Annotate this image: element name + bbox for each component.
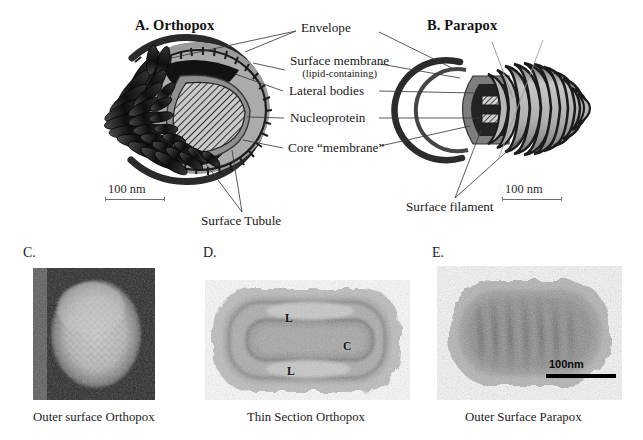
panel-title-orthopox: A. Orthopox (135, 17, 214, 34)
scale-bar-micrograph-e (546, 374, 616, 378)
callout-lateral-bodies: Lateral bodies (289, 84, 364, 98)
panel-letter-c: C. (23, 245, 36, 261)
panel-letter-e: E. (432, 245, 444, 261)
schematic-diagram-region: A. Orthopox B. Parapox Envelope Surface … (0, 0, 643, 240)
scale-label-micrograph-e: 100nm (549, 358, 584, 370)
callout-surface-tubule: Surface Tubule (201, 214, 281, 228)
micrograph-c (33, 268, 155, 400)
caption-d: Thin Section Orthopox (247, 410, 365, 425)
leader-filament-1 (455, 130, 481, 198)
panel-title-parapox: B. Parapox (427, 17, 497, 34)
micrograph-d-svg (205, 280, 410, 400)
leader-core-b (380, 126, 470, 146)
micrograph-d (205, 280, 410, 400)
callout-surface-membrane: Surface membrane (lipid-containing) (290, 54, 389, 79)
callout-surface-membrane-main: Surface membrane (290, 53, 389, 68)
scale-label-parapox: 100 nm (505, 182, 543, 197)
scale-bar-parapox (502, 199, 562, 200)
parapox-schematic (394, 60, 590, 160)
callout-envelope: Envelope (301, 21, 351, 35)
callout-surface-membrane-sub: (lipid-containing) (290, 68, 389, 79)
em-tag-core: C (343, 340, 351, 352)
callout-core-membrane: Core “membrane” (288, 141, 384, 155)
scale-bar-orthopox (105, 199, 165, 200)
micrograph-c-svg (33, 268, 155, 400)
panel-letter-d: D. (203, 245, 217, 261)
figure-root: A. Orthopox B. Parapox Envelope Surface … (0, 0, 643, 440)
caption-e: Outer Surface Parapox (465, 410, 582, 425)
em-tag-lateral-body-lower: L (287, 365, 295, 377)
scale-label-orthopox: 100 nm (108, 182, 146, 197)
parapox-surface-membrane-arc (416, 69, 468, 151)
callout-surface-filament: Surface filament (406, 200, 494, 214)
micrograph-e-svg (437, 266, 622, 400)
leader-surfmem-a (253, 63, 285, 70)
orthopox-schematic (102, 37, 272, 181)
leader-envelope-b (379, 32, 452, 68)
em-tag-lateral-body-upper: L (285, 312, 293, 324)
parapox-envelope-outline (394, 60, 462, 160)
leader-envelope-a (245, 31, 296, 52)
caption-c: Outer surface Orthopox (33, 410, 155, 425)
micrograph-e (437, 266, 622, 400)
leader-lateral-b (379, 91, 474, 93)
callout-nucleoprotein: Nucleoprotein (290, 111, 365, 125)
